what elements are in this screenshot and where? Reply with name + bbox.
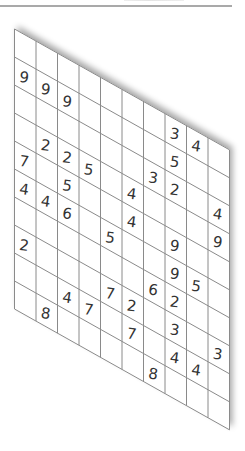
puzzle-board: 34999532422549754944659562272334774488	[0, 0, 245, 451]
puzzle-grid: 34999532422549754944659562272334774488	[15, 29, 230, 430]
